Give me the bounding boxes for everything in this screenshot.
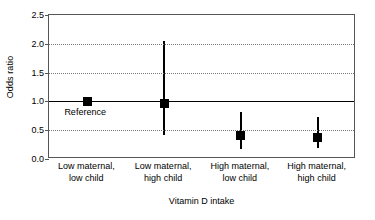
gridline: [49, 44, 354, 45]
y-axis-title: Odds ratio: [5, 42, 15, 112]
reference-line: [49, 101, 354, 102]
y-axis-tick-mark: [45, 15, 49, 16]
x-axis-category-label-line: high child: [269, 173, 365, 185]
gridline: [49, 130, 354, 131]
odds-ratio-forest-chart: Odds ratio Reference 0.00.51.01.52.02.5 …: [0, 0, 375, 220]
data-series: [49, 15, 354, 157]
gridline: [49, 73, 354, 74]
error-bar: [163, 41, 165, 135]
x-axis-category-label-line: High maternal,: [269, 161, 365, 173]
y-axis-tick-mark: [45, 159, 49, 160]
y-axis-tick-label: 1.5: [31, 68, 44, 77]
y-axis-tick-label: 2.5: [31, 11, 44, 20]
y-axis-tick-label: 2.0: [31, 39, 44, 48]
reference-annotation: Reference: [64, 107, 106, 117]
y-axis-tick-label: 1.0: [31, 97, 44, 106]
point-marker: [236, 131, 245, 140]
x-axis-title: Vitamin D intake: [48, 196, 355, 206]
plot-area: Reference 0.00.51.01.52.02.5: [48, 14, 355, 158]
point-marker: [313, 133, 322, 142]
y-axis-tick-label: 0.5: [31, 126, 44, 135]
x-axis-category-label: High maternal,high child: [269, 161, 365, 184]
x-axis-category-labels: Low maternal,low childLow maternal,high …: [48, 161, 355, 193]
